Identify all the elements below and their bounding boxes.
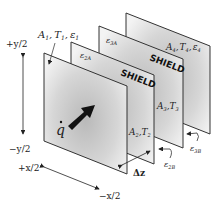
label-plus-x: +x/2 <box>18 163 39 173</box>
label-e2b: ε2B <box>164 160 175 170</box>
label-minus-y: −y/2 <box>9 144 30 154</box>
label-plus-y: +y/2 <box>6 39 27 49</box>
pointer-e3b-arrow <box>187 133 197 134</box>
svg-text:A1,T1,ε1: A1,T1,ε1 <box>37 29 79 41</box>
label-qdot: q <box>56 122 65 138</box>
qdot-dot <box>60 121 62 123</box>
label-minus-x: −x/2 <box>99 191 120 201</box>
x-axis-arrow <box>44 167 99 189</box>
pointer-e2b <box>170 149 172 158</box>
label-delta-z: Δz <box>133 168 145 178</box>
label-a3-t3: A3,T3 <box>156 101 179 112</box>
pointer-e3b <box>197 133 199 141</box>
label-e3b: ε3B <box>190 144 201 154</box>
radiation-shield-diagram: SHIELD SHIELD A1,T1,ε1 ε2A ε3A A4,T4,ε4 … <box>0 0 223 217</box>
label-a2-t2: A2,T2 <box>128 127 151 138</box>
label-a4-t4-e4: A4,T4,ε4 <box>165 42 201 53</box>
label-a1-t1-e1: A1,T1,ε1 <box>37 29 79 41</box>
